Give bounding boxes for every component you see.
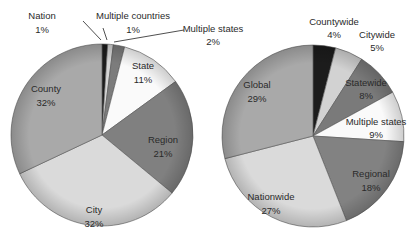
slice-label: Multiple countries <box>96 10 170 21</box>
slice-percent: 8% <box>359 90 373 101</box>
pie-charts: Nation1%Multiple countries1%Multiple sta… <box>0 0 416 244</box>
slice-percent: 9% <box>369 129 383 140</box>
slice-label: County <box>31 83 61 94</box>
slice-percent: 1% <box>126 24 140 35</box>
slice-label: Countywide <box>309 16 359 27</box>
slice-percent: 4% <box>327 29 341 40</box>
slice-label: Nationwide <box>248 191 295 202</box>
slice-percent: 32% <box>84 218 104 229</box>
slice-percent: 21% <box>153 148 173 159</box>
pie-chart-left: Nation1%Multiple countries1%Multiple sta… <box>11 10 244 229</box>
slice-label: Citywide <box>359 29 395 40</box>
leader-line <box>83 21 101 40</box>
leader-line <box>114 30 184 42</box>
pie-chart-right: Countywide4%Citywide5%Statewide8%Multipl… <box>222 16 407 227</box>
slice-label: City <box>86 204 103 215</box>
leader-line <box>103 28 107 40</box>
slice-percent: 1% <box>35 24 49 35</box>
slice-percent: 11% <box>134 74 153 85</box>
slice-label: Nation <box>28 10 55 21</box>
slice-label: Region <box>148 134 178 145</box>
slice-label: Statewide <box>345 77 387 88</box>
slice-label: Global <box>243 79 270 90</box>
slice-percent: 2% <box>206 36 220 47</box>
slice-percent: 27% <box>261 205 281 216</box>
slice-percent: 32% <box>36 97 56 108</box>
slice-percent: 29% <box>247 93 267 104</box>
slice-percent: 18% <box>361 182 381 193</box>
slice-label: Regional <box>352 168 390 179</box>
slice-percent: 5% <box>370 42 384 53</box>
slice-label: Multiple states <box>183 23 244 34</box>
slice-label: State <box>132 60 154 71</box>
slice-label: Multiple states <box>346 116 407 127</box>
